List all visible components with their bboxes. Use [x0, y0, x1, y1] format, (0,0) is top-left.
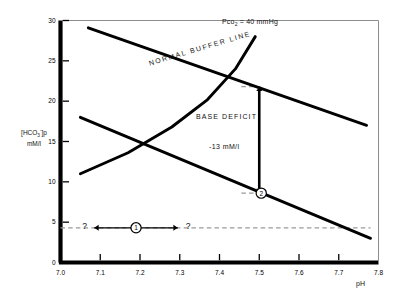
pco2-label-pre: Pco	[222, 18, 235, 25]
y-tick-label: 20	[48, 97, 55, 104]
x-axis-label: pH	[356, 280, 365, 287]
question-mark-left: ?	[82, 221, 87, 231]
pco2-label: Pco2 = 40 mmHg	[222, 18, 278, 27]
svg-text:2: 2	[259, 190, 263, 197]
y-label-pre: [HCO	[21, 129, 37, 136]
question-mark-right: ?	[186, 221, 191, 231]
y-tick-label: 0	[52, 259, 56, 266]
pco2-label-post: = 40 mmHg	[238, 18, 278, 25]
y-label-post: ]p	[41, 129, 46, 136]
y-tick-label: 5	[52, 218, 56, 225]
y-tick-label: 30	[48, 17, 55, 24]
acid-base-nomogram-figure: 12 [HCO3-]p mM/l pH NORMAL BUFFER LINE P…	[0, 0, 399, 299]
svg-text:1: 1	[134, 224, 138, 231]
x-tick-label: 7.8	[0, 269, 399, 276]
reference-dashed-lines	[61, 87, 371, 228]
y-tick-label: 15	[48, 138, 55, 145]
axis-ticks	[63, 21, 339, 261]
base-deficit-value: -13 mM/l	[209, 143, 239, 150]
base-deficit-title: BASE DEFICIT	[196, 113, 257, 120]
point-markers: 12	[131, 188, 266, 233]
y-tick-label: 25	[48, 57, 55, 64]
plot-frame	[59, 21, 379, 263]
y-label-sub: 3	[37, 133, 40, 138]
data-series-lines	[80, 28, 370, 239]
y-tick-label: 10	[48, 178, 55, 185]
